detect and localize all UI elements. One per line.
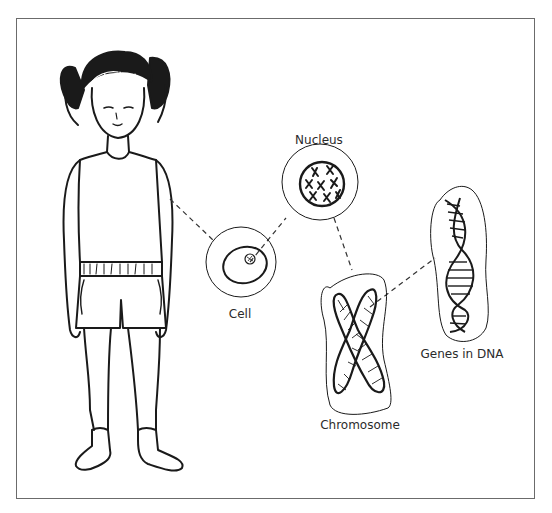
left-eye (104, 107, 113, 108)
diagram-canvas (0, 0, 552, 513)
shorts (76, 276, 166, 328)
label-cell: Cell (229, 307, 251, 321)
chromatid-2 (334, 289, 377, 393)
right-sock (138, 428, 183, 471)
child-illustration (61, 52, 183, 471)
left-pigtail (61, 67, 84, 109)
cell-membrane (206, 227, 276, 297)
shirt (79, 152, 163, 262)
cell-inner (219, 242, 271, 288)
dna-strand-1 (445, 200, 468, 332)
chromosome-illustration (321, 274, 391, 414)
cell-illustration (206, 227, 276, 297)
dna-illustration (431, 186, 489, 341)
label-nucleus: Nucleus (295, 133, 343, 147)
chromosome-outline (321, 274, 391, 414)
mouth (113, 124, 122, 126)
waistband (80, 262, 162, 276)
left-sock (76, 428, 111, 470)
dna-base-pairs (447, 204, 474, 324)
right-eye (124, 107, 133, 108)
face (92, 88, 145, 138)
connector-chromosome-dna (370, 258, 435, 307)
dna-outline (431, 186, 489, 341)
left-leg-outer (84, 328, 94, 430)
nucleus-illustration (282, 144, 358, 220)
right-leg-inner (128, 328, 138, 430)
connector-child-cell (170, 199, 213, 240)
left-leg-inner (108, 328, 111, 430)
hair (82, 52, 152, 90)
nucleus-outer (282, 144, 358, 220)
chromatid-1 (334, 294, 385, 392)
connector-nucleus-chromosome (334, 218, 352, 270)
label-dna: Genes in DNA (421, 347, 504, 361)
label-chromosome: Chromosome (320, 418, 400, 432)
right-leg-outer (156, 328, 160, 430)
